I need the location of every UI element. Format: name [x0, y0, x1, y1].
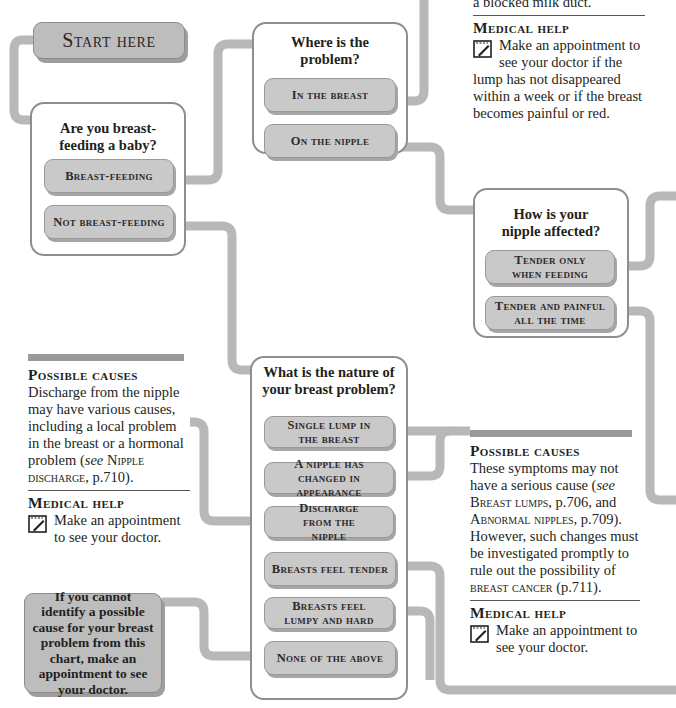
ref-page: , p.710). — [85, 469, 133, 485]
rule-bar-left — [28, 354, 184, 361]
cause-text-2: However, such changes must be investigat… — [470, 528, 639, 578]
medical-help-body: Make an appointment to see your doctor. — [470, 622, 640, 656]
option-discharge[interactable]: Discharge from the nipple — [264, 506, 394, 538]
possible-causes-text: These symptoms may not have a serious ca… — [470, 460, 640, 596]
option-breasts-lumpy-hard[interactable]: Breasts feel lumpy and hard — [264, 597, 394, 629]
ref-abnormal-nipples[interactable]: Abnormal nipples — [470, 511, 574, 527]
ref-page: (p.711). — [553, 579, 602, 595]
info-top-right: a blocked milk duct. Medical help Make a… — [473, 0, 645, 122]
option-single-lump[interactable]: Single lump in the breast — [264, 416, 394, 448]
option-not-breast-feeding[interactable]: Not breast-feeding — [44, 205, 174, 239]
option-tender-when-feeding[interactable]: Tender only when feeding — [485, 250, 615, 284]
question-nature: What is the nature of your breast proble… — [250, 356, 408, 700]
cause-tail-text: a blocked milk duct. — [473, 0, 645, 11]
medical-help-text: Make an appointment to see your doctor. — [496, 622, 637, 655]
info-left: Possible causes Discharge from the nippl… — [28, 366, 190, 546]
rule-bar-right — [470, 430, 632, 437]
medical-help-heading: Medical help — [28, 494, 190, 512]
question-nature-title: What is the nature of your breast proble… — [252, 364, 406, 398]
question-where-title: Where is the problem? — [254, 34, 406, 68]
medical-help-body: Make an appointment to see your doctor i… — [473, 37, 645, 122]
start-here-box: Start here — [33, 22, 185, 59]
divider — [470, 600, 640, 601]
notepad-pencil-icon — [473, 39, 493, 59]
medical-help-heading: Medical help — [473, 19, 645, 37]
cause-text: Discharge from the nipple may have vario… — [28, 384, 184, 468]
option-nipple-changed[interactable]: A nipple has changed in appearance — [264, 462, 394, 494]
divider — [473, 15, 645, 16]
possible-causes-heading: Possible causes — [470, 442, 640, 460]
option-in-the-breast[interactable]: In the breast — [264, 78, 396, 112]
option-breasts-tender[interactable]: Breasts feel tender — [264, 552, 396, 586]
medical-help-body: Make an appointment to see your doctor. — [28, 512, 190, 546]
ref-page: , p.709). — [574, 511, 622, 527]
ref-page: , p.706, and — [548, 494, 616, 510]
notepad-pencil-icon — [28, 514, 48, 534]
option-breast-feeding[interactable]: Breast-feeding — [44, 159, 174, 193]
question-nipple: How is your nipple affected? Tender only… — [473, 188, 629, 338]
medical-help-text: Make an appointment to see your doctor i… — [473, 37, 642, 121]
info-right: Possible causes These symptoms may not h… — [470, 442, 640, 656]
see-word: see — [596, 477, 615, 493]
medical-help-heading: Medical help — [470, 604, 640, 622]
option-none-of-above[interactable]: None of the above — [264, 641, 396, 675]
medical-help-text: Make an appointment to see your doctor. — [54, 512, 180, 545]
final-advice-box: If you cannot identify a possible cause … — [24, 593, 162, 693]
see-word: see — [85, 452, 104, 468]
possible-causes-heading: Possible causes — [28, 366, 190, 384]
notepad-pencil-icon — [470, 624, 490, 644]
ref-breast-cancer[interactable]: breast cancer — [470, 579, 553, 595]
question-where: Where is the problem? In the breast On t… — [252, 22, 408, 154]
divider — [28, 490, 190, 491]
question-breastfeeding-title: Are you breast-feeding a baby? — [32, 120, 184, 154]
ref-breast-lumps[interactable]: Breast lumps — [470, 494, 548, 510]
question-breastfeeding: Are you breast-feeding a baby? Breast-fe… — [30, 102, 186, 256]
possible-causes-text: Discharge from the nipple may have vario… — [28, 384, 190, 486]
question-nipple-title: How is your nipple affected? — [475, 206, 627, 240]
option-tender-painful-all-time[interactable]: Tender and painful all the time — [485, 296, 615, 330]
option-on-the-nipple[interactable]: On the nipple — [264, 124, 396, 158]
